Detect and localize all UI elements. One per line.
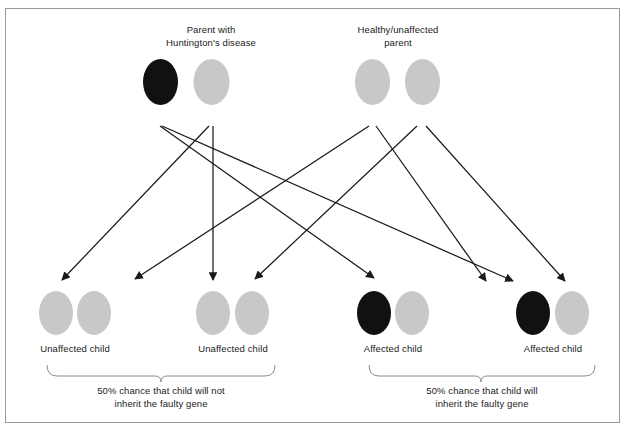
bracket-unaffected-shape (47, 365, 275, 382)
child-2-allele-b (235, 291, 269, 335)
parent-affected-allele-normal (194, 59, 230, 105)
child-1-alleles (39, 291, 111, 335)
bracket-unaffected-caption: 50% chance that child will not inherit t… (71, 385, 251, 410)
child-1-allele-a (39, 291, 73, 335)
arrow-hnormal2-to-child3b (426, 126, 565, 281)
child-3-allele-b (395, 291, 429, 335)
arrow-faulty-to-child4 (162, 126, 513, 281)
parent-affected-allele-faulty (143, 59, 178, 105)
child-2-allele-a (196, 291, 230, 335)
parent-affected-alleles (143, 59, 230, 105)
diagram-canvas (0, 0, 628, 436)
arrow-faulty-to-child3 (160, 126, 374, 278)
inheritance-diagram: Parent with Huntington's disease Healthy… (0, 0, 628, 436)
brackets (47, 365, 595, 382)
parent-healthy-allele-normal-2 (405, 59, 440, 105)
bracket-affected-shape (369, 365, 595, 382)
child-4-allele-a (516, 291, 550, 335)
child-4-alleles (516, 291, 589, 335)
arrow-pnormal-to-child1 (62, 126, 209, 280)
child-2-alleles (196, 291, 269, 335)
child-3-alleles (357, 291, 429, 335)
child-4-allele-b (555, 291, 589, 335)
child-3-label: Affected child (338, 343, 448, 356)
child-2-label: Unaffected child (178, 343, 288, 356)
child-4-label: Affected child (498, 343, 608, 356)
parent-healthy-alleles (355, 59, 440, 105)
arrow-hnormal2-to-child1b (255, 126, 417, 279)
parent-affected-label: Parent with Huntington's disease (141, 24, 281, 49)
inheritance-arrows (62, 126, 565, 281)
child-1-allele-b (77, 291, 111, 335)
child-3-allele-a (357, 291, 391, 335)
bracket-affected-caption: 50% chance that child will inherit the f… (392, 385, 572, 410)
parent-healthy-allele-normal-1 (355, 59, 390, 105)
parent-healthy-label: Healthy/unaffected parent (333, 24, 463, 49)
child-1-label: Unaffected child (20, 343, 130, 356)
